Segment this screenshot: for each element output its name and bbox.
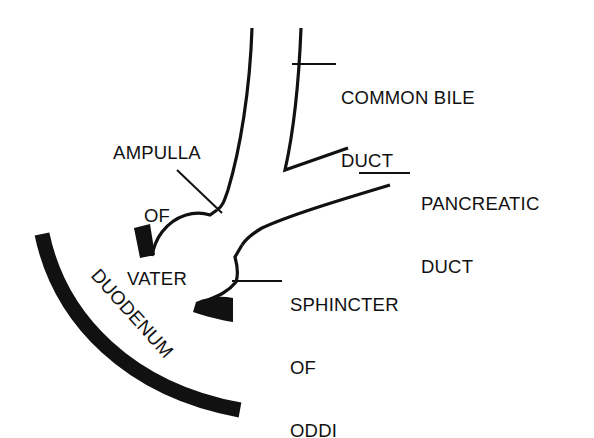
label-ampulla-of-vater: AMPULLA OF VATER [102,100,212,310]
label-line: ODDI [290,420,399,438]
label-line: OF [102,205,212,226]
label-line: DUCT [421,256,540,277]
label-line: AMPULLA [102,142,212,163]
common-bile-duct-right-wall [285,28,348,170]
label-pancreatic-duct: PANCREATIC DUCT [421,151,540,298]
label-line: COMMON BILE [341,87,475,108]
label-line: VATER [102,268,212,289]
pancreatic-duct-lower-wall [242,185,390,245]
label-sphincter-of-oddi: SPHINCTER OF ODDI [290,252,399,438]
label-line: OF [290,357,399,378]
common-bile-duct-left-wall [217,28,252,210]
ampulla-lower-contour [208,245,242,300]
label-line: SPHINCTER [290,294,399,315]
label-line: PANCREATIC [421,193,540,214]
